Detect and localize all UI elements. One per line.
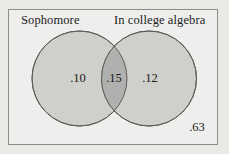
set-label-in-college-algebra: In college algebra <box>114 14 205 27</box>
value-sophomore-only: .10 <box>66 72 90 85</box>
value-college-algebra-only: .12 <box>138 72 162 85</box>
venn-diagram-figure: Sophomore In college algebra .10 .15 .12… <box>0 0 229 154</box>
value-outside-both-sets: .63 <box>184 121 210 134</box>
value-intersection: .15 <box>102 72 126 85</box>
set-label-sophomore: Sophomore <box>21 14 80 27</box>
